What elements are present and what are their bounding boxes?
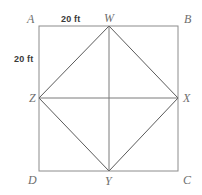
- rhombus-edge-zw: [39, 26, 109, 98]
- vertex-label-c: C: [183, 174, 191, 186]
- dimension-label-left: 20 ft: [14, 55, 34, 64]
- rhombus-edge-xy: [109, 98, 178, 171]
- vertex-label-a: A: [27, 13, 34, 25]
- vertex-label-b: B: [184, 13, 191, 25]
- rhombus-edge-yz: [39, 98, 109, 171]
- vertex-label-y: Y: [105, 175, 112, 187]
- vertex-label-w: W: [104, 12, 114, 24]
- vertex-label-x: X: [183, 92, 190, 104]
- rhombus-edge-wx: [109, 26, 178, 98]
- vertex-label-d: D: [28, 174, 37, 186]
- geometry-diagram: A B C D W X Y Z 20 ft 20 ft: [0, 0, 202, 195]
- vertex-label-z: Z: [29, 92, 36, 104]
- dimension-label-top: 20 ft: [61, 15, 81, 24]
